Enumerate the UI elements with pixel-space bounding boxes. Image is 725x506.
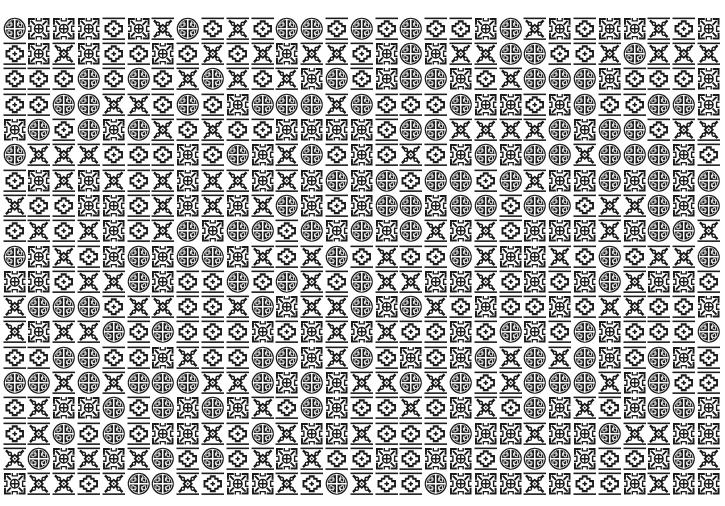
- square-knot-fret-tile: [647, 446, 672, 471]
- x-diamond-dots-tile: [76, 142, 101, 167]
- circle-fret-medallion-tile: [424, 471, 449, 496]
- x-diamond-dots-tile: [250, 446, 275, 471]
- stepped-diamond-tile: [176, 320, 201, 345]
- x-diamond-dots-tile: [225, 294, 250, 319]
- x-diamond-dots-tile: [523, 117, 548, 142]
- square-knot-fret-tile: [696, 67, 721, 92]
- stepped-diamond-tile: [672, 16, 697, 41]
- stepped-diamond-tile: [424, 16, 449, 41]
- square-knot-fret-tile: [324, 370, 349, 395]
- circle-fret-medallion-tile: [672, 218, 697, 243]
- stepped-diamond-icon: [3, 396, 27, 420]
- stepped-diamond-icon: [102, 67, 126, 91]
- x-diamond-dots-tile: [2, 320, 27, 345]
- square-knot-fret-tile: [399, 345, 424, 370]
- circle-fret-medallion-icon: [499, 42, 523, 66]
- x-diamond-dots-icon: [275, 422, 299, 446]
- square-knot-fret-tile: [448, 142, 473, 167]
- stepped-diamond-icon: [127, 396, 151, 420]
- stepped-diamond-icon: [350, 245, 374, 269]
- x-diamond-dots-tile: [200, 193, 225, 218]
- square-knot-fret-icon: [573, 270, 597, 294]
- stepped-diamond-tile: [324, 446, 349, 471]
- circle-fret-medallion-tile: [76, 294, 101, 319]
- circle-fret-medallion-icon: [27, 447, 51, 471]
- stepped-diamond-tile: [27, 67, 52, 92]
- circle-fret-medallion-tile: [672, 446, 697, 471]
- circle-fret-medallion-icon: [151, 371, 175, 395]
- circle-fret-medallion-icon: [499, 447, 523, 471]
- square-knot-fret-icon: [3, 118, 27, 142]
- stepped-diamond-tile: [275, 320, 300, 345]
- x-diamond-dots-icon: [27, 472, 51, 496]
- stepped-diamond-icon: [350, 447, 374, 471]
- square-knot-fret-icon: [176, 143, 200, 167]
- stepped-diamond-icon: [3, 422, 27, 446]
- square-knot-fret-icon: [251, 169, 275, 193]
- stepped-diamond-tile: [126, 168, 151, 193]
- stepped-diamond-tile: [572, 244, 597, 269]
- square-knot-fret-tile: [176, 395, 201, 420]
- stepped-diamond-tile: [225, 320, 250, 345]
- circle-fret-medallion-icon: [399, 118, 423, 142]
- x-diamond-dots-icon: [3, 194, 27, 218]
- stepped-diamond-icon: [474, 371, 498, 395]
- square-knot-fret-tile: [374, 67, 399, 92]
- square-knot-fret-icon: [151, 346, 175, 370]
- stepped-diamond-icon: [102, 42, 126, 66]
- x-diamond-dots-tile: [101, 370, 126, 395]
- circle-fret-medallion-tile: [101, 421, 126, 446]
- stepped-diamond-icon: [598, 396, 622, 420]
- x-diamond-dots-icon: [647, 472, 671, 496]
- square-knot-fret-tile: [27, 244, 52, 269]
- circle-fret-medallion-icon: [127, 270, 151, 294]
- x-diamond-dots-tile: [647, 16, 672, 41]
- circle-fret-medallion-icon: [647, 143, 671, 167]
- stepped-diamond-tile: [101, 41, 126, 66]
- stepped-diamond-icon: [27, 93, 51, 117]
- square-knot-fret-icon: [251, 143, 275, 167]
- circle-fret-medallion-tile: [523, 395, 548, 420]
- circle-fret-medallion-tile: [523, 67, 548, 92]
- circle-fret-medallion-tile: [324, 244, 349, 269]
- x-diamond-dots-tile: [349, 370, 374, 395]
- square-knot-fret-icon: [226, 194, 250, 218]
- square-knot-fret-tile: [275, 117, 300, 142]
- square-knot-fret-tile: [672, 269, 697, 294]
- circle-fret-medallion-icon: [399, 295, 423, 319]
- x-diamond-dots-tile: [126, 92, 151, 117]
- x-diamond-dots-tile: [448, 117, 473, 142]
- circle-fret-medallion-tile: [448, 168, 473, 193]
- x-diamond-dots-tile: [126, 446, 151, 471]
- stepped-diamond-tile: [498, 395, 523, 420]
- circle-fret-medallion-icon: [548, 143, 572, 167]
- x-diamond-dots-tile: [647, 421, 672, 446]
- circle-fret-medallion-tile: [622, 142, 647, 167]
- circle-fret-medallion-tile: [300, 370, 325, 395]
- x-diamond-dots-icon: [251, 42, 275, 66]
- x-diamond-dots-icon: [598, 194, 622, 218]
- square-knot-fret-icon: [499, 245, 523, 269]
- x-diamond-dots-icon: [27, 219, 51, 243]
- circle-fret-medallion-tile: [250, 370, 275, 395]
- circle-fret-medallion-tile: [523, 142, 548, 167]
- square-knot-fret-icon: [3, 270, 27, 294]
- square-knot-fret-tile: [672, 142, 697, 167]
- stepped-diamond-tile: [374, 16, 399, 41]
- square-knot-fret-tile: [250, 320, 275, 345]
- square-knot-fret-icon: [672, 270, 696, 294]
- square-knot-fret-tile: [448, 395, 473, 420]
- stepped-diamond-icon: [3, 42, 27, 66]
- x-diamond-dots-icon: [548, 346, 572, 370]
- stepped-diamond-icon: [573, 295, 597, 319]
- stepped-diamond-icon: [127, 143, 151, 167]
- circle-fret-medallion-icon: [127, 118, 151, 142]
- square-knot-fret-icon: [325, 422, 349, 446]
- circle-fret-medallion-tile: [597, 244, 622, 269]
- stepped-diamond-icon: [201, 346, 225, 370]
- square-knot-fret-icon: [275, 447, 299, 471]
- stepped-diamond-tile: [176, 294, 201, 319]
- stepped-diamond-icon: [424, 422, 448, 446]
- circle-fret-medallion-icon: [399, 42, 423, 66]
- stepped-diamond-tile: [151, 142, 176, 167]
